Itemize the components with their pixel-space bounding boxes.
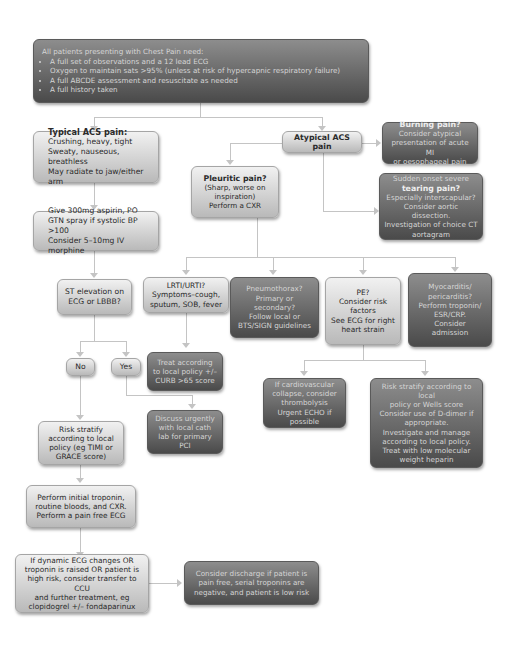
tearing-pain-pre: Sudden onset severe	[384, 174, 478, 183]
intro-bullet: Oxygen to maintain sats >95% (unless at …	[50, 66, 360, 76]
discharge-line: pain free, serial troponins are	[189, 578, 314, 587]
atypical-acs-box: Atypical ACS pain	[282, 131, 362, 153]
myocarditis-line: Consider	[413, 319, 487, 328]
cath-lab-line: Discuss urgently	[152, 414, 218, 423]
intro-box: All patients presenting with Chest Pain …	[33, 39, 369, 103]
wells-score-box: Risk stratify according to local policy …	[370, 378, 483, 468]
wells-line: weight heparin	[375, 455, 478, 464]
no-box: No	[66, 358, 95, 376]
dynamic-ecg-box: If dynamic ECG changes OR troponin is ra…	[15, 554, 149, 613]
dynamic-line: troponin is raised OR patient is	[20, 565, 144, 574]
risk-line: Risk stratify	[43, 425, 119, 434]
burning-pain-title: Burning pain?	[387, 120, 473, 129]
intro-list: A full set of observations and a 12 lead…	[42, 57, 360, 95]
treatment-line: Consider 5–10mg IV morphine	[48, 236, 154, 256]
st-elevation-line: ECG or LBBB?	[62, 297, 127, 307]
initial-treatment-box: Give 300mg aspirin, PO GTN spray if syst…	[33, 211, 159, 251]
typical-acs-box: Typical ACS pain: Crushing, heavy, tight…	[33, 131, 159, 183]
yes-box: Yes	[111, 358, 141, 376]
tearing-pain-line: Especially interscapular?	[384, 193, 478, 202]
pleuritic-pain-line: Perform a CXR	[196, 201, 274, 210]
myocarditis-line: pericarditis?	[413, 292, 487, 301]
wells-line: Treat with low molecular	[375, 446, 478, 455]
burning-pain-line: or oesophageal pain	[387, 157, 473, 166]
typical-acs-line: Crushing, heavy, tight	[48, 137, 154, 147]
intro-bullet: A full set of observations and a 12 lead…	[50, 57, 360, 67]
no-label: No	[71, 362, 90, 371]
wells-line: according to local policy.	[375, 437, 478, 446]
st-elevation-box: ST elevation on ECG or LBBB?	[57, 279, 132, 315]
myocarditis-line: Myocarditis/	[413, 282, 487, 291]
pneumothorax-line: Follow local or	[235, 312, 314, 321]
lrti-line: LRTI/URTI?	[148, 281, 224, 290]
treatment-line: Give 300mg aspirin, PO	[48, 206, 154, 216]
intro-heading: All patients presenting with Chest Pain …	[42, 47, 360, 57]
pneumothorax-line: Primary or	[235, 294, 314, 303]
typical-acs-title: Typical ACS pain:	[48, 127, 154, 137]
initial-line: Perform a pain free ECG	[31, 511, 131, 520]
pneumothorax-line: secondary?	[235, 303, 314, 312]
burning-pain-line: Consider atypical	[387, 129, 473, 138]
pe-line: Consider risk	[330, 297, 396, 306]
pneumothorax-line: Pneumothorax?	[235, 284, 314, 293]
cath-lab-line: PCI	[152, 441, 218, 450]
lrti-line: Symptoms–cough,	[148, 290, 224, 299]
cath-lab-line: lab for primary	[152, 432, 218, 441]
dynamic-line: and further treatment, eg	[20, 593, 144, 602]
pneumothorax-box: Pneumothorax? Primary or secondary? Foll…	[230, 277, 319, 338]
initial-troponin-box: Perform initial troponin, routine bloods…	[26, 485, 136, 528]
myocarditis-line: Perform troponin/	[413, 301, 487, 310]
cardio-line: If cardiovascular	[268, 380, 341, 389]
wells-line: appropriate.	[375, 418, 478, 427]
dynamic-line: clopidogrel +/– fondaparinux	[20, 602, 144, 611]
cath-lab-line: with local cath	[152, 423, 218, 432]
myocarditis-box: Myocarditis/ pericarditis? Perform tropo…	[408, 273, 492, 347]
wells-line: Consider use of D-dimer if	[375, 409, 478, 418]
wells-line: Investigate and manage	[375, 428, 478, 437]
risk-stratify-box: Risk stratify according to local policy …	[38, 421, 124, 465]
wells-line: Risk stratify according to local	[375, 382, 478, 400]
atypical-acs-title: Atypical ACS pain	[287, 133, 357, 151]
dynamic-line: If dynamic ECG changes OR	[20, 556, 144, 565]
pleuritic-pain-box: Pleuritic pain? (Sharp, worse on inspira…	[191, 166, 279, 218]
intro-bullet: A full ABCDE assessment and resuscitate …	[50, 76, 360, 86]
pleuritic-pain-line: inspiration)	[196, 192, 274, 201]
pe-line: factors	[330, 306, 396, 315]
pneumothorax-line: BTS/SIGN guidelines	[235, 321, 314, 330]
curb-box: Treat according to local policy +/– CURB…	[147, 352, 223, 391]
st-elevation-line: ST elevation on	[62, 287, 127, 297]
cardio-line: collapse, consider	[268, 389, 341, 398]
discharge-line: negative, and patient is low risk	[189, 588, 314, 597]
risk-line: according to local	[43, 434, 119, 443]
lrti-line: sputum, SOB, fever	[148, 300, 224, 309]
pe-line: See ECG for right	[330, 316, 396, 325]
risk-line: GRACE score)	[43, 452, 119, 461]
cardio-line: thrombolysis	[268, 398, 341, 407]
pe-line: heart strain	[330, 325, 396, 334]
cardio-line: Urgent ECHO if possible	[268, 408, 341, 426]
initial-line: Perform initial troponin,	[31, 493, 131, 502]
curb-line: Treat according	[152, 358, 218, 367]
initial-line: routine bloods, and CXR.	[31, 502, 131, 511]
tearing-pain-title: tearing pain?	[384, 184, 478, 193]
treatment-line: GTN spray if systolic BP >100	[48, 216, 154, 236]
discharge-line: Consider discharge if patient is	[189, 569, 314, 578]
yes-label: Yes	[116, 362, 136, 371]
typical-acs-line: May radiate to jaw/either arm	[48, 167, 154, 187]
pleuritic-pain-line: (Sharp, worse on	[196, 183, 274, 192]
tearing-pain-line: Investigation of choice CT	[384, 220, 478, 229]
myocarditis-line: admission	[413, 328, 487, 337]
tearing-pain-line: aortagram	[384, 230, 478, 239]
cath-lab-box: Discuss urgently with local cath lab for…	[147, 410, 223, 454]
pe-line: PE?	[330, 288, 396, 297]
dynamic-line: high risk, consider transfer to CCU	[20, 574, 144, 592]
burning-pain-line: presentation of acute MI	[387, 138, 473, 156]
tearing-pain-line: Consider aortic dissection.	[384, 202, 478, 220]
typical-acs-line: Sweaty, nauseous, breathless	[48, 147, 154, 167]
intro-bullet: A full history taken	[50, 85, 360, 95]
wells-line: policy or Wells score	[375, 400, 478, 409]
curb-line: CURB >65 score	[152, 376, 218, 385]
discharge-box: Consider discharge if patient is pain fr…	[184, 561, 319, 605]
cardiovascular-collapse-box: If cardiovascular collapse, consider thr…	[263, 378, 346, 428]
myocarditis-line: ESR/CRP.	[413, 310, 487, 319]
